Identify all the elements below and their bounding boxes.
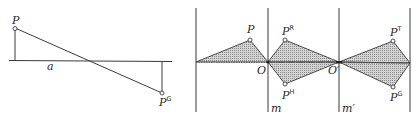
label-m: m bbox=[271, 102, 281, 115]
label-o-prime: O′ bbox=[328, 64, 340, 77]
label-ph: PH bbox=[281, 88, 294, 102]
right-figure: P PR PH PT PG O O′ m m′ bbox=[196, 8, 410, 115]
glide-reflection-diagram: P a PG P PR PH PT PG O O′ m bbox=[0, 0, 418, 125]
point-pg bbox=[160, 91, 164, 95]
label-p: P bbox=[11, 14, 20, 27]
triangle-pg bbox=[339, 62, 410, 87]
left-figure: P a PG bbox=[9, 14, 172, 109]
label-pg: PG bbox=[158, 95, 171, 109]
center-o bbox=[266, 60, 269, 63]
point-p bbox=[13, 27, 17, 31]
point-pg bbox=[391, 85, 395, 89]
point-pr bbox=[283, 38, 287, 42]
triangle-pr bbox=[268, 40, 339, 62]
label-a: a bbox=[47, 60, 54, 73]
triangle-pt bbox=[339, 41, 410, 63]
label-p: P bbox=[246, 23, 255, 36]
point-ph bbox=[283, 82, 287, 86]
point-p bbox=[248, 38, 252, 42]
label-pr: PR bbox=[281, 24, 294, 38]
point-pt bbox=[391, 39, 395, 43]
label-o: O bbox=[257, 64, 266, 77]
label-pt: PT bbox=[389, 25, 401, 39]
label-m-prime: m′ bbox=[342, 102, 355, 115]
label-pg: PG bbox=[389, 90, 402, 104]
triangle-p bbox=[196, 40, 268, 62]
